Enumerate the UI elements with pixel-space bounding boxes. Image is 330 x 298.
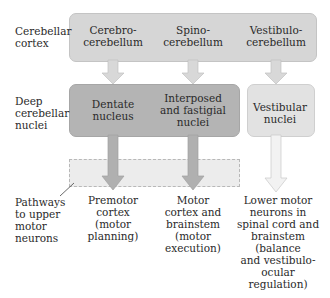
motor-cortex-brainstem-label: Motor cortex and brainstem (motor execut… <box>158 194 228 254</box>
spinocerebellum-label: Spino- cerebellum <box>158 24 228 48</box>
pathways-pointer-line <box>60 183 74 196</box>
interposed-fastigial-label: Interposed and fastigial nuclei <box>153 92 233 128</box>
premotor-cortex-label: Premotor cortex (motor planning) <box>78 194 148 242</box>
arrow-cerebro-to-dentate-icon <box>102 60 124 84</box>
label-deep-cerebellar-nuclei: Deep cerebellar nuclei <box>15 95 69 131</box>
vestibulocerebellum-label: Vestibulo- cerebellum <box>241 24 311 48</box>
label-pathways-upper-motor: Pathways to upper motor neurons <box>15 196 65 244</box>
arrow-vestibulo-to-vestibular-icon <box>265 60 287 84</box>
arrow-spino-to-interposed-icon <box>182 60 204 84</box>
lower-motor-neurons-label: Lower motor neurons in spinal cord and b… <box>236 194 320 290</box>
label-cerebellar-cortex: Cerebellar cortex <box>15 25 71 49</box>
arrow-dentate-to-premotor-icon <box>102 135 124 190</box>
vestibular-nuclei-label: Vestibular nuclei <box>245 101 315 125</box>
arrow-vestibular-to-lower-icon <box>265 135 287 192</box>
arrow-interposed-to-motor-icon <box>182 135 204 190</box>
cerebrocerebellum-label: Cerebro- cerebellum <box>78 24 148 48</box>
dentate-nucleus-label: Dentate nucleus <box>78 98 148 122</box>
